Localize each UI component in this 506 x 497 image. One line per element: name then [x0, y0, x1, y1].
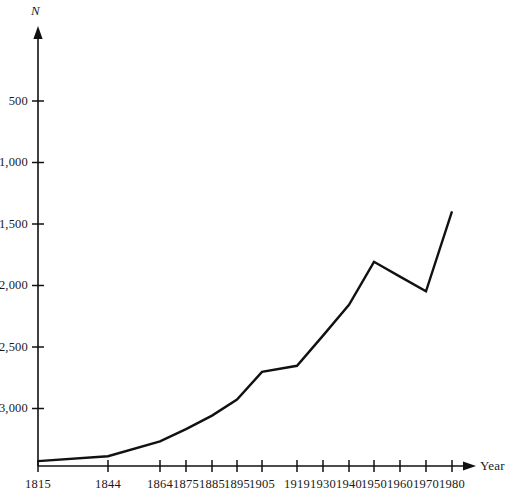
y-tick-label-1500: 1,500	[0, 218, 28, 231]
x-tick-label-1980: 1980	[422, 478, 482, 491]
y-tick-label-1000: 1,000	[0, 156, 28, 169]
y-tick-label-3000: 3,000	[0, 402, 28, 415]
y-axis-arrow-icon	[33, 26, 42, 39]
x-tick-label-1815: 1815	[8, 478, 68, 491]
y-tick-label-500: 500	[0, 95, 28, 108]
data-series-line	[38, 211, 452, 461]
y-axis-title: N	[31, 4, 40, 17]
x-tick-label-1844: 1844	[78, 478, 138, 491]
y-tick-label-2500: 2,500	[0, 341, 28, 354]
y-tick-label-2000: 2,000	[0, 279, 28, 292]
x-axis-arrow-icon	[463, 461, 476, 470]
chart-figure: 3,000 2,500 2,000 1,500 1,000 500 1815 1…	[0, 0, 506, 497]
x-axis-title: Year	[480, 459, 505, 472]
chart-canvas	[0, 0, 506, 497]
